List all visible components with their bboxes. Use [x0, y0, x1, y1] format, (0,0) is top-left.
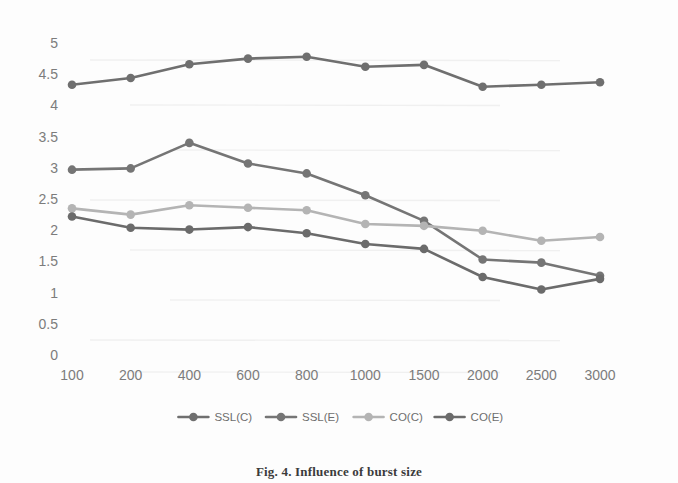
data-point-marker	[420, 61, 429, 70]
data-point-marker	[420, 245, 429, 254]
data-point-marker	[126, 164, 135, 173]
data-point-marker	[185, 60, 194, 69]
y-tick-label: 1	[50, 285, 58, 301]
scan-streak	[170, 150, 560, 151]
x-tick-label: 800	[295, 367, 319, 383]
data-point-marker	[126, 223, 135, 232]
data-point-marker	[68, 165, 77, 174]
data-point-marker	[185, 201, 194, 210]
y-tick-label: 4	[50, 97, 58, 113]
data-point-marker	[302, 169, 311, 178]
scan-streak	[90, 200, 500, 201]
x-tick-label: 600	[236, 367, 260, 383]
x-tick-label: 400	[178, 367, 202, 383]
data-point-marker	[244, 223, 253, 232]
y-tick-label: 2	[50, 222, 58, 238]
data-point-marker	[361, 191, 370, 200]
data-point-marker	[302, 229, 311, 238]
data-point-marker	[478, 255, 487, 264]
data-point-marker	[361, 240, 370, 249]
data-point-marker	[185, 139, 194, 148]
data-point-marker	[420, 222, 429, 231]
data-point-marker	[244, 159, 253, 168]
data-point-marker	[361, 220, 370, 229]
data-point-marker	[478, 273, 487, 282]
legend-marker-icon	[445, 413, 454, 422]
y-tick-label: 5	[50, 35, 58, 51]
y-tick-label: 4.5	[39, 66, 59, 82]
scan-streak	[130, 250, 560, 251]
data-point-marker	[596, 78, 605, 87]
x-tick-label: 1000	[350, 367, 381, 383]
y-tick-label: 0	[50, 347, 58, 363]
data-point-marker	[537, 81, 546, 90]
x-tick-label: 100	[60, 367, 84, 383]
legend-label: CO(C)	[390, 411, 423, 423]
data-point-marker	[126, 210, 135, 219]
x-tick-label: 2500	[526, 367, 557, 383]
x-tick-label: 1500	[408, 367, 439, 383]
data-point-marker	[302, 206, 311, 215]
y-tick-label: 1.5	[39, 253, 59, 269]
legend-label: CO(E)	[471, 411, 504, 423]
data-point-marker	[596, 233, 605, 242]
chart-plot-area: 54.543.532.521.510.50 100200400600800100…	[0, 0, 678, 440]
legend-marker-icon	[364, 413, 373, 422]
legend-marker-icon	[189, 413, 198, 422]
data-point-marker	[537, 258, 546, 267]
data-point-marker	[537, 237, 546, 246]
y-tick-label: 2.5	[39, 191, 59, 207]
data-point-marker	[302, 52, 311, 61]
data-point-marker	[185, 225, 194, 234]
data-point-marker	[537, 285, 546, 294]
scan-streak	[130, 105, 500, 106]
line-chart: 54.543.532.521.510.50 100200400600800100…	[0, 0, 678, 440]
legend-marker-icon	[277, 413, 286, 422]
data-point-marker	[361, 62, 370, 71]
x-tick-label: 200	[119, 367, 143, 383]
x-tick-label: 2000	[467, 367, 498, 383]
y-tick-label: 0.5	[39, 316, 59, 332]
data-point-marker	[478, 82, 487, 91]
data-point-marker	[596, 275, 605, 284]
data-point-marker	[126, 74, 135, 83]
figure-caption: Fig. 4. Influence of burst size	[0, 464, 678, 480]
data-point-marker	[244, 203, 253, 212]
data-point-marker	[68, 81, 77, 90]
data-point-marker	[68, 204, 77, 213]
legend-label: SSL(E)	[302, 411, 339, 423]
scan-streak	[90, 340, 560, 341]
legend-label: SSL(C)	[214, 411, 252, 423]
figure-container: 54.543.532.521.510.50 100200400600800100…	[0, 0, 678, 483]
data-point-marker	[478, 227, 487, 236]
data-point-marker	[244, 54, 253, 63]
x-tick-label: 3000	[584, 367, 615, 383]
scan-streak	[170, 300, 500, 301]
y-tick-label: 3	[50, 160, 58, 176]
chart-background	[0, 0, 678, 440]
y-tick-label: 3.5	[39, 129, 59, 145]
data-point-marker	[68, 212, 77, 221]
